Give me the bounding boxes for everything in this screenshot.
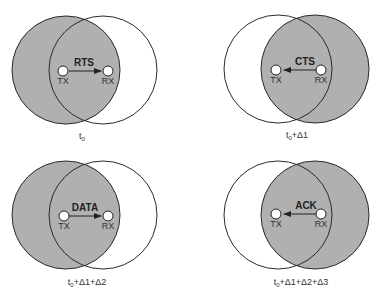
rx-node — [103, 211, 113, 221]
rx-label: RX — [315, 219, 328, 229]
rx-node — [316, 209, 326, 219]
rx-node — [316, 65, 326, 75]
tx-node — [271, 65, 281, 75]
tx-label: TX — [270, 75, 282, 85]
time-label: t0 — [79, 131, 86, 142]
rx-node — [103, 66, 113, 76]
time-label: t0+Δ1+Δ2 — [68, 277, 106, 288]
panel-cts: CTS TX RX t0+Δ1 — [224, 15, 369, 141]
message-label: ACK — [295, 200, 317, 211]
message-label: RTS — [74, 57, 94, 68]
message-label: CTS — [295, 56, 315, 67]
panel-ack: ACK TX RX t0+Δ1+Δ2+Δ3 — [224, 161, 369, 288]
tx-label: TX — [57, 76, 69, 86]
panel-rts: RTS TX RX t0 — [12, 16, 157, 142]
tx-node — [59, 211, 69, 221]
time-label: t0+Δ1+Δ2+Δ3 — [274, 277, 329, 288]
panel-data: DATA TX RX t0+Δ1+Δ2 — [12, 161, 157, 288]
tx-node — [58, 66, 68, 76]
tx-label: TX — [58, 221, 70, 231]
time-label: t0+Δ1 — [286, 130, 308, 141]
rx-label: RX — [102, 76, 115, 86]
tx-node — [271, 209, 281, 219]
rx-label: RX — [315, 75, 328, 85]
message-label: DATA — [72, 202, 98, 213]
rts-cts-diagram: RTS TX RX t0 CTS TX RX t0+Δ1 DATA TX RX … — [0, 0, 382, 292]
rx-label: RX — [102, 221, 115, 231]
tx-label: TX — [270, 219, 282, 229]
